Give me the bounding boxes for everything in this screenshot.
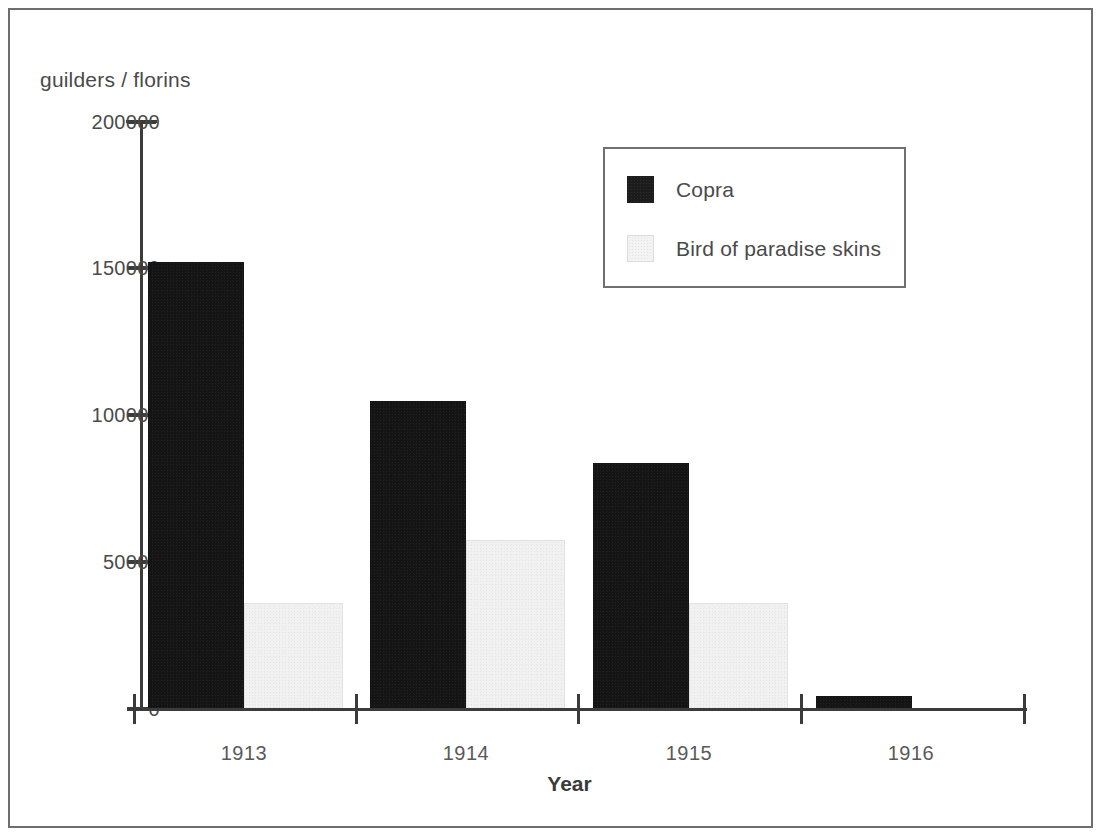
x-tick-start bbox=[133, 694, 136, 724]
legend-item-bird-of-paradise-skins: Bird of paradise skins bbox=[627, 235, 881, 262]
bar-copra-1914 bbox=[370, 401, 466, 709]
x-tick-label-1913: 1913 bbox=[164, 742, 324, 765]
legend-item-copra: Copra bbox=[627, 176, 734, 203]
legend-swatch-bird-of-paradise-skins-icon bbox=[627, 235, 654, 262]
bar-copra-1915 bbox=[593, 463, 689, 709]
bar-copra-1913 bbox=[148, 262, 244, 709]
bar-group-1914 bbox=[370, 0, 592, 709]
bar-group-1913 bbox=[148, 0, 370, 709]
chart-page: guilders / florins 200000 150000 100000 … bbox=[0, 0, 1111, 835]
x-tick-end bbox=[1023, 694, 1026, 724]
bars-area bbox=[0, 0, 1111, 709]
x-tick-label-1916: 1916 bbox=[831, 742, 991, 765]
x-axis-title-wrap: Year bbox=[0, 772, 1111, 796]
x-axis-title: Year bbox=[547, 772, 591, 796]
x-tick-label-1914: 1914 bbox=[386, 742, 546, 765]
bar-group-1915 bbox=[593, 0, 815, 709]
x-tick-1914-1915 bbox=[577, 694, 580, 724]
bar-bird-of-paradise-skins-1914 bbox=[466, 540, 565, 709]
bar-bird-of-paradise-skins-1915 bbox=[689, 603, 788, 709]
bar-group-1916 bbox=[816, 0, 1038, 709]
chart-legend: Copra Bird of paradise skins bbox=[603, 147, 906, 288]
bar-bird-of-paradise-skins-1913 bbox=[244, 603, 343, 709]
x-tick-1915-1916 bbox=[800, 694, 803, 724]
x-tick-label-1915: 1915 bbox=[609, 742, 769, 765]
bar-chart: guilders / florins 200000 150000 100000 … bbox=[0, 0, 1111, 835]
legend-label-bird-of-paradise-skins: Bird of paradise skins bbox=[676, 237, 881, 261]
legend-swatch-copra-icon bbox=[627, 176, 654, 203]
x-tick-1913-1914 bbox=[355, 694, 358, 724]
legend-label-copra: Copra bbox=[676, 178, 734, 202]
